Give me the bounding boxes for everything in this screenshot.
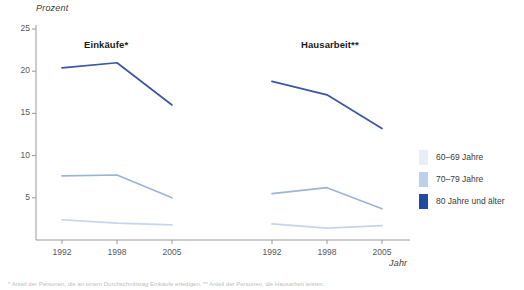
legend-swatch — [419, 150, 428, 165]
x-tick-label: 1992 — [252, 247, 292, 257]
x-tick-label: 1998 — [97, 247, 137, 257]
series-line — [62, 63, 172, 105]
legend-item: 60–69 Jahre — [419, 146, 524, 168]
chart-figure: Prozent Jahr Einkäufe* Hausarbeit** 5101… — [0, 0, 524, 290]
y-tick-label: 10 — [8, 150, 30, 160]
chart-legend: 60–69 Jahre70–79 Jahre80 Jahre und älter — [419, 146, 524, 212]
x-tick-label: 1992 — [42, 247, 82, 257]
legend-item: 80 Jahre und älter — [419, 190, 524, 212]
x-tick-label: 2005 — [152, 247, 192, 257]
legend-label: 60–69 Jahre — [436, 152, 483, 162]
x-tick-label: 1998 — [307, 247, 347, 257]
legend-label: 80 Jahre und älter — [436, 196, 505, 206]
y-tick-label: 5 — [8, 192, 30, 202]
legend-swatch — [419, 172, 428, 187]
legend-item: 70–79 Jahre — [419, 168, 524, 190]
series-line — [272, 188, 382, 209]
y-tick-label: 15 — [8, 107, 30, 117]
series-line — [272, 224, 382, 228]
series-line — [272, 81, 382, 128]
y-tick-label: 20 — [8, 65, 30, 75]
series-line — [62, 220, 172, 225]
x-tick-label: 2005 — [362, 247, 402, 257]
chart-footnote: * Anteil der Personen, die an einem Durc… — [8, 281, 325, 287]
series-line — [62, 175, 172, 198]
legend-label: 70–79 Jahre — [436, 174, 483, 184]
legend-swatch — [419, 194, 428, 209]
y-tick-label: 25 — [8, 23, 30, 33]
